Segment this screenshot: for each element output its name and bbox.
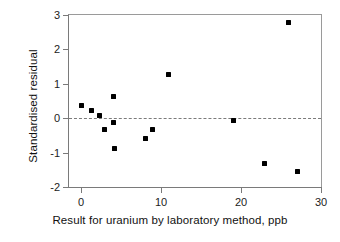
- y-tick-label: 2: [54, 43, 60, 55]
- data-point: [79, 103, 84, 108]
- x-tick-label: 20: [235, 196, 247, 208]
- data-point: [111, 120, 116, 125]
- y-tick-label: 3: [54, 9, 60, 21]
- x-tick: [241, 187, 242, 193]
- x-tick-label: 30: [315, 196, 327, 208]
- y-tick-label: 1: [54, 78, 60, 90]
- y-tick: [63, 118, 69, 119]
- y-tick: [63, 187, 69, 188]
- data-point: [112, 146, 117, 151]
- y-axis-label: Standardised residual: [27, 11, 39, 201]
- data-point: [231, 118, 236, 123]
- data-point: [166, 72, 171, 77]
- data-point: [102, 127, 107, 132]
- x-tick: [81, 187, 82, 193]
- y-tick: [63, 153, 69, 154]
- data-point: [295, 169, 300, 174]
- zero-reference-line: [69, 118, 321, 119]
- plot-area: -2-10123 0102030: [68, 14, 322, 188]
- y-tick-label: 0: [54, 112, 60, 124]
- scatter-plot-figure: Standardised residual -2-10123 0102030 R…: [0, 0, 340, 242]
- data-point: [143, 136, 148, 141]
- data-point: [286, 20, 291, 25]
- y-tick-label: -2: [50, 181, 60, 193]
- data-point: [150, 127, 155, 132]
- x-tick-label: 0: [78, 196, 84, 208]
- data-point: [97, 113, 102, 118]
- y-tick: [63, 84, 69, 85]
- x-tick-label: 10: [155, 196, 167, 208]
- y-tick: [63, 49, 69, 50]
- x-tick: [161, 187, 162, 193]
- data-point: [111, 94, 116, 99]
- x-tick: [321, 187, 322, 193]
- x-axis-label: Result for uranium by laboratory method,…: [0, 214, 340, 226]
- y-tick: [63, 15, 69, 16]
- y-tick-label: -1: [50, 147, 60, 159]
- data-point: [262, 161, 267, 166]
- data-point: [89, 108, 94, 113]
